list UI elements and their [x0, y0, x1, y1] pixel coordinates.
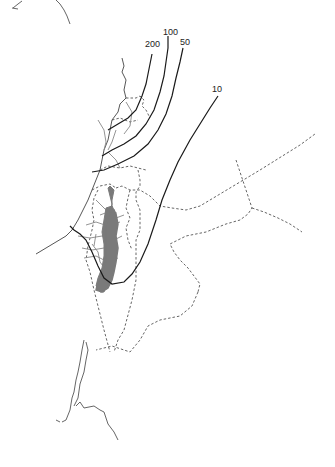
- contour-100: [102, 36, 168, 156]
- contour-label-100: 100: [163, 28, 178, 37]
- contour-200: [108, 54, 152, 130]
- borders: [86, 96, 315, 352]
- southern-coast: [56, 340, 118, 440]
- top-coastline-fragments: [12, 0, 70, 24]
- contour-lines: [70, 36, 218, 284]
- contour-label-50: 50: [180, 38, 190, 47]
- map-canvas: 200 100 50 10: [0, 0, 335, 467]
- contour-label-200: 200: [145, 40, 160, 49]
- contour-label-10: 10: [212, 85, 222, 94]
